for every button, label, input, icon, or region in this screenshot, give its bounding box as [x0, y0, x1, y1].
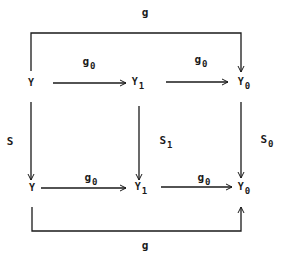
label-bot-g0-left: g0 — [84, 172, 97, 187]
diagram-arrows — [0, 0, 281, 255]
label-s-left: S — [7, 136, 14, 147]
node-top-right: Y0 — [238, 77, 250, 91]
node-top-mid: Y1 — [132, 77, 144, 91]
label-top-g0-left: g0 — [82, 56, 95, 71]
node-bot-left: Y — [29, 183, 35, 193]
bottom-bracket-arrow — [32, 207, 241, 231]
label-top-g0-right: g0 — [194, 54, 207, 69]
label-s0-right: S0 — [260, 134, 273, 149]
node-bot-right: Y0 — [238, 182, 250, 196]
commutative-diagram: g Y Y1 Y0 g0 g0 S S1 S0 Y Y1 Y0 g0 g0 — [0, 0, 281, 255]
top-bracket-label: g — [142, 7, 149, 18]
bottom-bracket-label: g — [142, 240, 149, 251]
node-top-left: Y — [28, 78, 34, 88]
top-bracket-arrow — [31, 33, 241, 72]
label-bot-g0-right: g0 — [197, 172, 210, 187]
node-bot-mid: Y1 — [135, 182, 147, 196]
label-s1-mid: S1 — [159, 135, 172, 150]
